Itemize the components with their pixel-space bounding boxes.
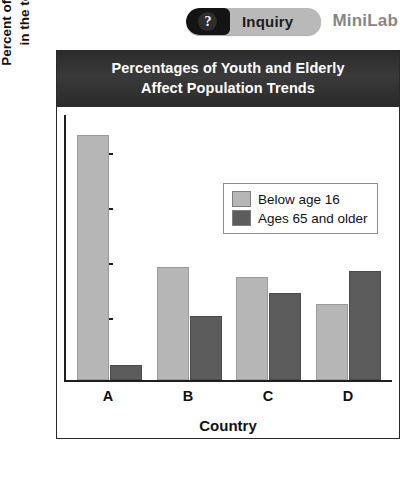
- legend-swatch-1: [232, 191, 251, 207]
- bar-series-container: [66, 115, 392, 380]
- chart-title: Percentages of Youth and Elderly Affect …: [57, 51, 399, 107]
- bar-b-series-1: [157, 267, 189, 380]
- x-axis-tick-label-b: B: [155, 388, 221, 408]
- bar-d-series-1: [316, 304, 348, 380]
- legend-label-2: Ages 65 and older: [258, 211, 368, 226]
- x-axis-tick-label-c: C: [235, 388, 301, 408]
- bar-d-series-2: [349, 271, 381, 380]
- x-axis-tick-labels: ABCD: [64, 388, 392, 408]
- y-axis-title-line-1: Percent of youth and elderly: [0, 0, 16, 110]
- legend-label-1: Below age 16: [258, 192, 340, 207]
- question-mark-icon: ?: [198, 12, 217, 31]
- legend-item-1: Below age 16: [232, 191, 368, 207]
- bar-a-series-2: [110, 365, 142, 380]
- chart-frame: Percentages of Youth and Elderly Affect …: [56, 50, 400, 439]
- plot-outer: 010203040 ABCD Country Below age 16Ages …: [57, 107, 399, 438]
- bar-c-series-2: [269, 293, 301, 380]
- legend-item-2: Ages 65 and older: [232, 210, 368, 226]
- x-axis-tick-label-a: A: [75, 388, 141, 408]
- x-axis-title: Country: [57, 417, 399, 434]
- bar-group-d: [316, 115, 381, 380]
- inquiry-badge-cap: ?: [186, 8, 230, 35]
- chart-legend: Below age 16Ages 65 and older: [223, 183, 378, 234]
- minilab-header: ? Inquiry MiniLab: [0, 6, 404, 36]
- minilab-label: MiniLab: [332, 11, 398, 31]
- plot-area: [64, 115, 392, 382]
- bar-c-series-1: [236, 277, 268, 380]
- chart-title-line-1: Percentages of Youth and Elderly: [111, 59, 344, 79]
- y-axis-title-wrap: Percent of youth and elderly in the tota…: [0, 0, 56, 487]
- bar-group-b: [157, 115, 222, 380]
- y-axis-title: Percent of youth and elderly in the tota…: [0, 0, 34, 110]
- chart-title-line-2: Affect Population Trends: [141, 79, 315, 99]
- bar-b-series-2: [190, 316, 222, 380]
- bar-group-c: [236, 115, 301, 380]
- bar-a-series-1: [77, 135, 109, 380]
- x-axis-tick-label-d: D: [315, 388, 381, 408]
- bar-group-a: [77, 115, 142, 380]
- inquiry-label: Inquiry: [230, 13, 303, 30]
- legend-swatch-2: [232, 210, 251, 226]
- y-axis-title-line-2: in the total population: [16, 0, 34, 110]
- inquiry-badge: ? Inquiry: [186, 8, 321, 35]
